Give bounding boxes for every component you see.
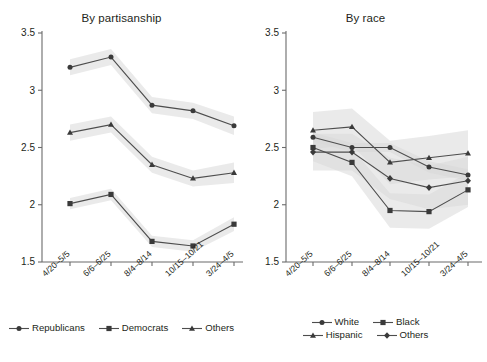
plot-area-left: 1.522.533.5 (0, 0, 243, 362)
legend-row: RepublicansDemocratsOthers (0, 322, 243, 335)
panel-by-race: By race 1.522.533.5 4/20–5/56/6–6/258/4–… (244, 0, 487, 362)
legend-label: White (335, 316, 360, 329)
circle-marker-icon (9, 324, 29, 333)
legend-row: WhiteBlack (244, 316, 487, 329)
legend-left: RepublicansDemocratsOthers (0, 322, 243, 335)
diamond-marker-icon (377, 331, 397, 340)
legend-item-others[interactable]: Others (377, 329, 429, 342)
legend-item-republicans[interactable]: Republicans (9, 322, 85, 335)
legend-label: Others (400, 329, 429, 342)
legend-item-hispanic[interactable]: Hispanic (303, 329, 363, 342)
legend-item-others[interactable]: Others (182, 322, 234, 335)
panel-by-partisanship: By partisanship 1.522.533.5 4/20–5/56/6–… (0, 0, 243, 362)
svg-text:3.5: 3.5 (265, 27, 279, 38)
legend-item-democrats[interactable]: Democrats (99, 322, 168, 335)
svg-text:1.5: 1.5 (21, 256, 35, 267)
legend-label: Democrats (122, 322, 168, 335)
svg-text:2.5: 2.5 (21, 142, 35, 153)
square-marker-icon (373, 318, 393, 327)
svg-text:2: 2 (273, 199, 279, 210)
square-marker-icon (99, 324, 119, 333)
legend-label: Republicans (32, 322, 85, 335)
legend-label: Hispanic (326, 329, 363, 342)
svg-text:3: 3 (273, 85, 279, 96)
legend-item-black[interactable]: Black (373, 316, 419, 329)
triangle-marker-icon (182, 324, 202, 333)
legend-label: Black (396, 316, 419, 329)
triangle-marker-icon (303, 331, 323, 340)
circle-marker-icon (312, 318, 332, 327)
legend-right: WhiteBlackHispanicOthers (244, 316, 487, 342)
svg-text:3: 3 (29, 85, 35, 96)
legend-item-white[interactable]: White (312, 316, 360, 329)
plot-area-right: 1.522.533.5 (244, 0, 487, 362)
svg-text:2: 2 (29, 199, 35, 210)
svg-text:2.5: 2.5 (265, 142, 279, 153)
legend-label: Others (205, 322, 234, 335)
svg-text:3.5: 3.5 (21, 27, 35, 38)
svg-text:1.5: 1.5 (265, 256, 279, 267)
figure: By partisanship 1.522.533.5 4/20–5/56/6–… (0, 0, 487, 362)
legend-row: HispanicOthers (244, 329, 487, 342)
